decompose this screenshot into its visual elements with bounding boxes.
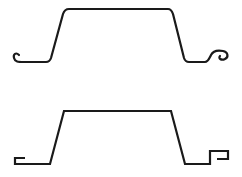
box-hook-interlock-profile <box>15 111 228 164</box>
curved-hook-interlock-profile <box>14 9 228 62</box>
sheet-pile-diagram <box>0 0 242 177</box>
